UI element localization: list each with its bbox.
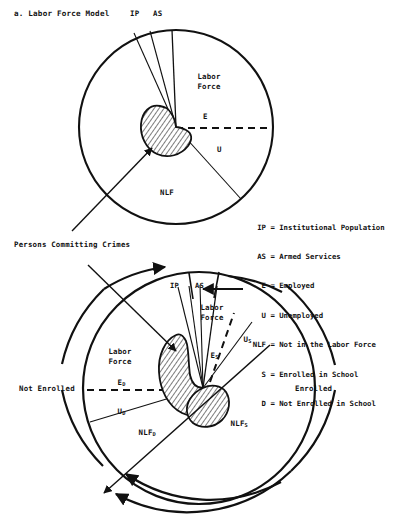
bottom-label-u-s: US bbox=[225, 325, 252, 357]
legend-key: D bbox=[240, 399, 266, 409]
bottom-label-nlf-d: NLFD bbox=[120, 418, 156, 450]
band-tick-left bbox=[189, 273, 193, 299]
top-label-as: AS bbox=[153, 9, 162, 19]
legend-row: IP = Institutional Population bbox=[240, 223, 385, 233]
legend-text: Enrolled in School bbox=[279, 370, 358, 379]
legend-text: Armed Services bbox=[279, 252, 341, 261]
legend-eq: = bbox=[270, 370, 274, 379]
bottom-label-e-d: ED bbox=[99, 368, 126, 400]
bottom-label-nlf-s: NLFS bbox=[212, 409, 248, 441]
legend-row: NLF = Not in the Labor Force bbox=[240, 340, 385, 350]
legend-row: S = Enrolled in School bbox=[240, 370, 385, 380]
figure-title: a. Labor Force Model bbox=[14, 9, 109, 19]
annotation-persons-committing-crimes: Persons Committing Crimes bbox=[14, 240, 130, 250]
top-label-ip: IP bbox=[130, 9, 139, 19]
legend-text: Not in the Labor Force bbox=[279, 340, 376, 349]
outer-arc-left-lower bbox=[62, 390, 103, 466]
bottom-label-nlf-s-sub: S bbox=[245, 423, 248, 429]
bottom-label-e-d-sub: D bbox=[122, 382, 125, 388]
legend-key: E bbox=[240, 281, 266, 291]
bottom-label-enrolled: Enrolled bbox=[295, 384, 332, 394]
legend-eq: = bbox=[270, 311, 274, 320]
legend-eq: = bbox=[270, 281, 274, 290]
top-label-labor-force: Labor Force bbox=[187, 72, 231, 92]
bottom-label-ip: IP bbox=[170, 281, 179, 291]
legend-row: U = Unemployed bbox=[240, 311, 385, 321]
top-label-employed: E bbox=[203, 112, 208, 122]
legend-text: Employed bbox=[279, 281, 314, 290]
legend-row: E = Employed bbox=[240, 281, 385, 291]
bottom-label-u-d-sub: D bbox=[122, 411, 125, 417]
legend-eq: = bbox=[270, 223, 274, 232]
legend-row: D = Not Enrolled in School bbox=[240, 399, 385, 409]
bottom-label-nlf-d-sub: D bbox=[153, 432, 156, 438]
legend-key: S bbox=[240, 370, 266, 380]
bottom-label-e-s-sub: S bbox=[215, 355, 218, 361]
top-label-nlf: NLF bbox=[160, 188, 174, 198]
bottom-label-nlf-d-base: NLF bbox=[139, 428, 153, 437]
top-label-unemployed: U bbox=[217, 145, 222, 155]
bottom-label-nlf-s-base: NLF bbox=[231, 419, 245, 428]
figure-root: a. Labor Force Model IP AS Labor Force E… bbox=[0, 0, 417, 526]
bottom-label-not-enrolled: Not Enrolled bbox=[19, 384, 75, 394]
legend-text: Institutional Population bbox=[279, 223, 384, 232]
legend: IP = Institutional Population AS = Armed… bbox=[240, 203, 385, 428]
bottom-label-u-s-sub: S bbox=[248, 339, 251, 345]
bottom-label-as: AS bbox=[195, 281, 204, 291]
legend-key: IP bbox=[240, 223, 266, 233]
bottom-label-labor-force-left: Labor Force bbox=[97, 347, 143, 367]
legend-eq: = bbox=[270, 340, 274, 349]
bottom-label-e-s: ES bbox=[192, 341, 219, 373]
legend-eq: = bbox=[270, 399, 274, 408]
outer-arc-top-in bbox=[104, 267, 165, 289]
outer-arc-bottom-return bbox=[116, 471, 291, 512]
legend-key: U bbox=[240, 311, 266, 321]
top-circle-group bbox=[72, 30, 273, 231]
legend-text: Unemployed bbox=[279, 311, 323, 320]
bottom-label-labor-force-right: Labor Force bbox=[189, 303, 235, 323]
legend-row: AS = Armed Services bbox=[240, 252, 385, 262]
legend-text: Not Enrolled in School bbox=[279, 399, 376, 408]
legend-key: AS bbox=[240, 252, 266, 262]
legend-eq: = bbox=[270, 252, 274, 261]
top-crime-blob bbox=[141, 106, 191, 156]
